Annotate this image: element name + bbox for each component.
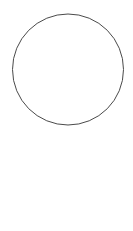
geometry-figure xyxy=(0,0,133,231)
circumcircle xyxy=(13,14,124,125)
geometry-canvas xyxy=(0,0,133,231)
